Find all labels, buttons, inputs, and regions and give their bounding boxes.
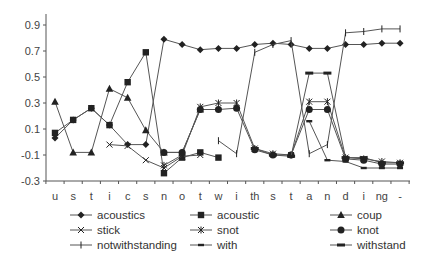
y-tick-label: 0.3 [25,97,40,109]
x-tick-label: o [179,190,185,202]
y-tick-label: 0.5 [25,71,40,83]
x-tick-label: n [161,190,167,202]
legend-label: knot [357,224,380,236]
legend-label: stick [97,224,120,236]
y-tick-label: -0.1 [21,149,40,161]
legend-label: acoustic [217,209,259,221]
x-tick-label: t [199,190,202,202]
x-tick-label: c [125,190,131,202]
x-tick-label: i [108,190,110,202]
legend-label: with [216,239,237,251]
x-tick-label: s [270,190,276,202]
series-withstand [251,72,404,165]
series-stick [106,142,203,171]
x-tick-label: s [143,190,149,202]
y-tick-label: 0.7 [25,45,40,57]
legend-label: withstand [356,239,406,251]
x-tick-label: t [290,190,293,202]
x-tick-label: th [250,190,259,202]
y-tick-label: -0.3 [21,175,40,187]
legend-item-withstand: withstand [330,239,406,251]
series-acoustic [52,49,222,176]
legend-item-acoustics: acoustics [70,209,145,221]
x-tick-label: n [324,190,330,202]
x-tick-label: i [235,190,237,202]
x-tick-label: - [398,190,402,202]
legend-item-stick: stick [70,224,120,236]
y-tick-label: 0.9 [25,19,40,31]
x-tick-label: s [70,190,76,202]
x-tick-label: ng [376,190,388,202]
x-tick-label: t [90,190,93,202]
x-tick-label: a [306,190,313,202]
legend-item-coup: coup [330,209,382,221]
x-tick-label: w [213,190,222,202]
legend-label: notwithstanding [97,239,177,251]
series-acoustics [52,36,404,148]
legend-label: snot [217,224,240,236]
legend-label: coup [357,209,382,221]
legend-item-knot: knot [330,224,380,236]
legend-item-with: with [190,239,237,251]
plot-area [51,25,404,176]
legend-label: acoustics [97,209,145,221]
x-tick-label: i [362,190,364,202]
legend-item-notwithstanding: notwithstanding [70,239,177,251]
legend-item-acoustic: acoustic [190,209,259,221]
x-tick-label: u [52,190,58,202]
legend: acousticsacousticcoupsticksnotknotnotwit… [70,209,406,251]
x-tick-label: d [342,190,348,202]
y-tick-label: 0.1 [25,123,40,135]
legend-item-snot: snot [190,224,240,236]
line-chart: 0.90.70.50.30.1-0.1-0.3usticsnotwithstan… [0,0,427,260]
